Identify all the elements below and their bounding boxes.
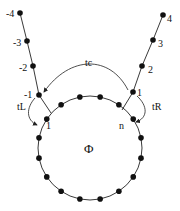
tL-arrow [28,98,37,125]
svg-text:2: 2 [148,64,153,75]
svg-text:1: 1 [137,87,142,98]
svg-text:-3: -3 [13,37,21,48]
svg-text:4: 4 [167,13,172,24]
tR-arrow [136,96,145,122]
chain-nodes [17,10,166,98]
ring-first-site-label: 1 [46,120,51,131]
ring-last-site-label: n [119,120,124,131]
svg-text:-1: -1 [24,89,32,100]
svg-text:-4: -4 [6,8,14,19]
ring-chain-diagram: -4 -3 -2 -1 4 3 2 1 tc tL tR 1 n Φ [0,0,180,211]
svg-text:3: 3 [158,38,163,49]
svg-text:-2: -2 [19,62,27,73]
tc-label: tc [85,57,93,68]
right-chain [122,15,163,110]
tc-arrow [44,64,128,92]
tR-label: tR [152,101,162,112]
tL-label: tL [17,101,26,112]
labels: -4 -3 -2 -1 4 3 2 1 tc tL tR 1 n Φ [6,8,172,156]
ring-phi-label: Φ [84,141,94,156]
